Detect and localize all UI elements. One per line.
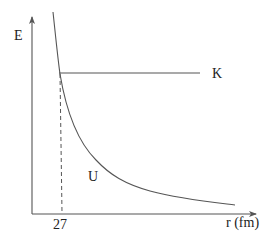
x-marker-label: 27 (53, 217, 67, 232)
turning-point-dashed-line (60, 74, 62, 213)
x-axis-label: r (fm) (226, 215, 259, 231)
y-axis-label: E (14, 28, 23, 43)
u-label: U (88, 169, 98, 184)
potential-curve-u (53, 12, 235, 205)
energy-diagram: E K U 27 r (fm) (0, 0, 272, 241)
k-label: K (212, 66, 222, 81)
